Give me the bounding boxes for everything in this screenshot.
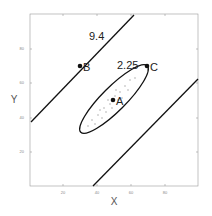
chart: 20 40 60 80 20 40 60 80 X Y A B C 2.25 9… xyxy=(0,0,212,216)
point-b xyxy=(78,64,83,69)
x-tick: 40 xyxy=(95,190,100,195)
label-b: B xyxy=(83,61,90,73)
label-c: C xyxy=(150,61,158,73)
x-tick: 80 xyxy=(163,190,168,195)
y-tick: 80 xyxy=(20,46,25,51)
y-tick: 40 xyxy=(20,115,25,120)
x-tick: 60 xyxy=(129,190,134,195)
label-a: A xyxy=(116,95,124,107)
contour-line-lower xyxy=(93,79,198,186)
y-tick: 20 xyxy=(20,149,25,154)
x-axis-label: X xyxy=(111,196,118,207)
point-c xyxy=(145,64,150,69)
point-a xyxy=(111,98,116,103)
y-axis-label: Y xyxy=(11,94,18,105)
contour-label-2.25: 2.25 xyxy=(117,59,138,71)
y-tick: 60 xyxy=(20,80,25,85)
contour-label-9.4: 9.4 xyxy=(89,30,104,42)
x-tick: 20 xyxy=(61,190,66,195)
